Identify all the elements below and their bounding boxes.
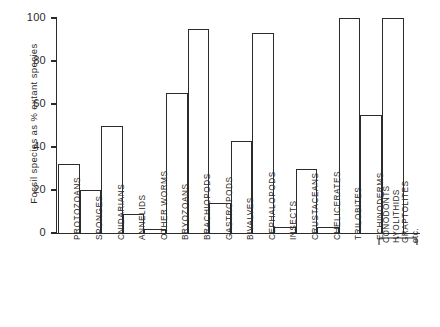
- category-label-gastropods: GASTROPODS: [224, 120, 234, 240]
- bar-chart-figure: Fossil species as % extant species 02040…: [0, 0, 440, 327]
- y-tick-label-100: 100: [12, 11, 46, 23]
- y-tick-0: [51, 232, 57, 233]
- category-label-chelicerates: CHELICERATES: [332, 120, 342, 240]
- group-label-graptolites: GRAPTOLITES: [400, 123, 410, 243]
- y-tick-label-40: 40: [12, 140, 46, 152]
- group-label-etc-: etc.: [410, 123, 420, 243]
- category-label-bryozoans: BRYOZOANS: [180, 120, 190, 240]
- y-axis-title: Fossil species as % extant species: [28, 16, 39, 231]
- group-brace-icon: [378, 236, 418, 246]
- category-label-crustaceans: CRUSTACEANS: [310, 120, 320, 240]
- y-tick-100: [51, 17, 57, 18]
- category-label-cnidarians: CNIDARIANS: [116, 120, 126, 240]
- category-label-sponges: SPONGES: [94, 120, 104, 240]
- y-tick-80: [51, 60, 57, 61]
- y-tick-60: [51, 103, 57, 104]
- category-label-trilobites: TRILOBITES: [353, 120, 363, 240]
- category-label-annelids: ANNELIDS: [137, 120, 147, 240]
- category-label-cephalopods: CEPHALOPODS: [267, 120, 277, 240]
- category-label-brachiopods: BRACHIOPODS: [202, 120, 212, 240]
- category-label-bivalves: BIVALVES: [245, 120, 255, 240]
- y-tick-40: [51, 146, 57, 147]
- category-label-other-worms: OTHER WORMS: [159, 120, 169, 240]
- y-tick-label-80: 80: [12, 54, 46, 66]
- y-tick-label-60: 60: [12, 97, 46, 109]
- category-label-protozoans: PROTOZOANS: [72, 120, 82, 240]
- y-tick-label-0: 0: [12, 226, 46, 238]
- x-axis-line: [56, 233, 420, 234]
- group-label-conodonts: CONODONTS: [381, 123, 391, 243]
- y-tick-label-20: 20: [12, 183, 46, 195]
- y-tick-20: [51, 189, 57, 190]
- category-label-insects: INSECTS: [288, 120, 298, 240]
